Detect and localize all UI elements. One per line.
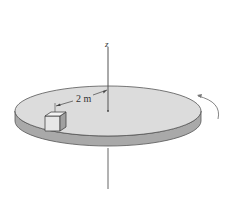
block-front: [45, 116, 60, 131]
diagram-canvas: z 2 m: [0, 0, 237, 206]
block: [45, 112, 66, 131]
distance-label: 2 m: [75, 94, 92, 104]
axis-center-point: [107, 110, 109, 112]
rotation-arrowhead-icon: [197, 94, 202, 98]
z-axis-label: z: [105, 40, 109, 49]
diagram-graphic: [0, 0, 237, 206]
